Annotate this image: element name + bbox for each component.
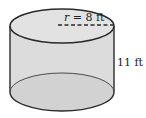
radius-label: r = 8 ft	[64, 11, 105, 24]
height-label: 11 ft	[117, 56, 144, 69]
cylinder-diagram: r = 8 ft 11 ft	[0, 0, 146, 118]
